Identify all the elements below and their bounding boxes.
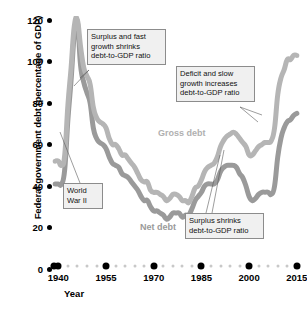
annotation-world-war-2: World War II	[63, 183, 103, 209]
x-minor-tick-dot-icon	[209, 265, 212, 268]
x-minor-tick-dot-icon	[181, 265, 184, 268]
series-label-net-debt: Net debt	[140, 222, 176, 233]
x-major-tick-dot-icon	[150, 263, 157, 270]
x-minor-tick-dot-icon	[257, 265, 260, 268]
y-tick-label: 0	[38, 264, 43, 275]
series-label-gross-debt: Gross debt	[158, 128, 206, 139]
x-minor-tick-dot-icon	[76, 265, 79, 268]
x-major-tick-dot-icon	[246, 263, 253, 270]
x-minor-tick-dot-icon	[133, 265, 136, 268]
x-minor-tick-dot-icon	[95, 265, 98, 268]
x-minor-tick-dot-icon	[219, 265, 222, 268]
annotation-surplus-shrinks: Surplus shrinks debt-to-GDP ratio	[185, 213, 264, 239]
x-minor-tick-dot-icon	[66, 265, 69, 268]
x-tick-label-1955: 1955	[95, 272, 116, 283]
x-minor-tick-dot-icon	[286, 265, 289, 268]
x-minor-tick-dot-icon	[238, 265, 241, 268]
x-tick-label-2000: 2000	[239, 272, 260, 283]
y-tick-label: 60	[32, 139, 43, 150]
x-tick-label-1985: 1985	[191, 272, 212, 283]
x-origin-dot-icon	[50, 263, 57, 270]
x-minor-tick-dot-icon	[171, 265, 174, 268]
x-minor-tick-dot-icon	[276, 265, 279, 268]
y-tick-label: 80	[32, 98, 43, 109]
y-tick-120: 120	[10, 14, 52, 26]
x-major-tick-dot-icon	[103, 263, 110, 270]
y-tick-40: 40	[10, 180, 52, 192]
x-minor-tick-dot-icon	[124, 265, 127, 268]
x-minor-tick-dot-icon	[162, 265, 165, 268]
annotation-surplus-fast-growth: Surplus and fast growth shrinks debt-to-…	[87, 29, 166, 65]
x-axis-title: Year	[64, 288, 84, 299]
x-minor-tick-dot-icon	[85, 265, 88, 268]
x-minor-tick-dot-icon	[229, 265, 232, 268]
y-tick-label: 100	[27, 56, 43, 67]
x-major-tick-dot-icon	[198, 263, 205, 270]
x-major-tick-dot-icon	[293, 263, 300, 270]
annotation-deficit-slow-growth: Deficit and slow growth increases debt-t…	[176, 66, 255, 102]
x-minor-tick-dot-icon	[114, 265, 117, 268]
y-tick-100: 100	[10, 56, 52, 68]
x-minor-tick-dot-icon	[143, 265, 146, 268]
y-tick-0: 0	[10, 263, 52, 275]
x-tick-label-1970: 1970	[143, 272, 164, 283]
y-tick-label: 120	[27, 15, 43, 26]
y-tick-80: 80	[10, 97, 52, 109]
y-tick-60: 60	[10, 139, 52, 151]
x-axis: 194019551970198520002015	[52, 262, 302, 292]
y-tick-label: 20	[32, 222, 43, 233]
y-tick-label: 40	[32, 181, 43, 192]
x-tick-label-1940: 1940	[48, 272, 69, 283]
y-tick-20: 20	[10, 222, 52, 234]
x-minor-tick-dot-icon	[267, 265, 270, 268]
y-axis-ticks: 020406080100120	[0, 0, 52, 311]
x-minor-tick-dot-icon	[190, 265, 193, 268]
chart-container: Federal government debt (percentage of G…	[0, 0, 307, 311]
x-tick-label-2015: 2015	[286, 272, 307, 283]
